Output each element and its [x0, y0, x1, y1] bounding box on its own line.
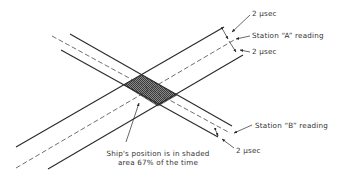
station-b-dimension-arrows	[216, 125, 252, 148]
caption-line-2: area 67% of the time	[88, 158, 228, 167]
station-b-upper-bound	[70, 34, 232, 126]
shaded-area-caption: Ship's position is in shaded area 67% of…	[88, 149, 228, 167]
station-a-band	[16, 27, 243, 169]
station-b-reading-line	[52, 36, 230, 133]
station-a-reading-label: Station “A” reading	[252, 31, 324, 40]
station-b-width-label: 2 μsec	[236, 146, 261, 155]
station-b-reading-label: Station “B” reading	[255, 121, 328, 130]
station-a-upper-width-label: 2 μsec	[252, 9, 277, 18]
station-a-upper-bound	[16, 27, 224, 147]
station-a-dimension-arrows	[223, 15, 250, 52]
station-a-lower-width-label: 2 μsec	[252, 47, 277, 56]
caption-line-1: Ship's position is in shaded	[88, 149, 228, 158]
